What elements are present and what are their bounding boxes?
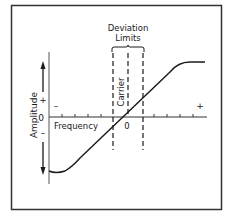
- y-axis-plus: +: [39, 95, 47, 105]
- y-axis-minus: –: [41, 128, 46, 138]
- x-axis-origin: 0: [124, 121, 129, 131]
- x-axis-minus: –: [54, 101, 59, 111]
- carrier-label: Carrier: [116, 77, 126, 107]
- deviation-limits-label-line1: Deviation: [108, 23, 149, 33]
- deviation-limits-label-line2: Limits: [115, 33, 141, 43]
- y-axis-zero: 0: [38, 113, 44, 123]
- x-axis-label: Frequency: [54, 121, 98, 131]
- diagram-canvas: Amplitude + 0 – – + Frequency 0 Deviatio…: [0, 0, 229, 218]
- x-axis-plus: +: [196, 101, 204, 111]
